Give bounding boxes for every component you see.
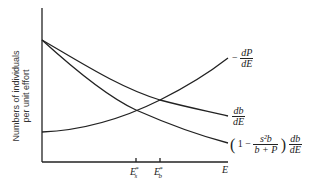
label-adjusted-db-de: ( 1 − s²bb + P ) dbdE (230, 134, 302, 155)
y-axis-label-line1: Numbers of individuals (11, 41, 21, 151)
curve-minus-dp-de (42, 58, 228, 132)
x-axis-label: E (222, 164, 228, 175)
tick-label-eb: E*b (154, 165, 167, 180)
label-minus-dp-de: − dPdE (232, 48, 253, 69)
tick-label-es: E*s (130, 165, 142, 180)
y-axis-label-line2: per unit effort (21, 41, 31, 151)
y-axis-label: Numbers of individuals per unit effort (11, 41, 31, 151)
label-db-de: dbdE (232, 106, 245, 127)
chart-canvas (0, 0, 316, 186)
